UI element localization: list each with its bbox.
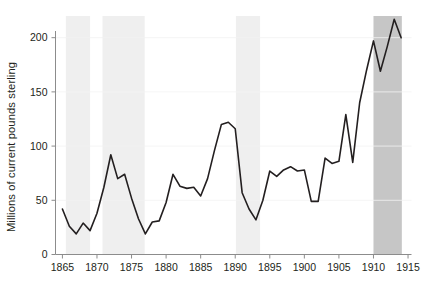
y-axis-tick-label: 50 xyxy=(36,194,48,206)
x-axis-tick-label: 1880 xyxy=(154,261,178,273)
y-axis-tick-label: 0 xyxy=(42,248,48,260)
x-axis-tick-label: 1905 xyxy=(327,261,351,273)
line-chart-plot: 050100150200 186518701875188018851890189… xyxy=(0,0,423,293)
x-axis-tick-label: 1900 xyxy=(293,261,317,273)
y-ticks-layer: 050100150200 xyxy=(30,31,56,260)
chart-figure: Millions of current pounds sterling 0501… xyxy=(0,0,423,293)
x-axis-tick-label: 1875 xyxy=(120,261,144,273)
shaded-band xyxy=(66,16,90,255)
y-axis-tick-label: 150 xyxy=(30,86,48,98)
shaded-bands-layer xyxy=(66,16,402,255)
x-axis-tick-label: 1910 xyxy=(362,261,386,273)
x-axis-tick-label: 1885 xyxy=(189,261,213,273)
x-ticks-layer: 1865187018751880188518901895190019051910… xyxy=(51,255,420,274)
x-axis-tick-label: 1915 xyxy=(396,261,420,273)
shaded-band xyxy=(373,16,401,255)
y-axis-tick-label: 200 xyxy=(30,31,48,43)
x-axis-tick-label: 1870 xyxy=(85,261,109,273)
y-axis-tick-label: 100 xyxy=(30,140,48,152)
x-axis-tick-label: 1895 xyxy=(258,261,282,273)
x-axis-tick-label: 1890 xyxy=(224,261,248,273)
x-axis-tick-label: 1865 xyxy=(51,261,75,273)
